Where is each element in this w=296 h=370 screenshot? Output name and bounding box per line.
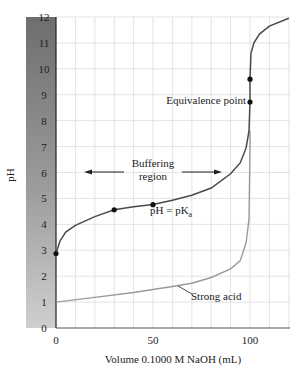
region-label: region [139,170,168,182]
y-tick-4: 4 [41,218,47,230]
pka-label: pH = pKa [150,204,193,219]
titration-chart: 0123456789101112 0 50 100 Volume 0.1000 … [0,0,296,370]
data-point [247,77,252,82]
data-point [53,251,58,256]
y-tick-5: 5 [41,192,47,204]
y-tick-7: 7 [41,141,47,153]
x-tick-100: 100 [242,334,259,346]
x-tick-0: 0 [53,334,59,346]
y-tick-6: 6 [41,167,47,179]
x-tick-50: 50 [148,334,160,346]
y-tick-10: 10 [39,63,51,75]
equivalence-label: Equivalence point [166,94,246,106]
arrow-right-icon [214,170,222,175]
y-tick-2: 2 [41,270,47,282]
data-point [247,99,252,104]
y-tick-1: 1 [41,296,47,308]
y-tick-11: 11 [39,37,50,49]
buffering-label: Buffering [132,157,175,169]
strong-acid-label: Strong acid [191,290,242,302]
arrow-left-icon [84,170,92,175]
y-tick-3: 3 [41,244,47,256]
y-tick-0: 0 [41,322,47,334]
y-tick-12: 12 [39,11,50,23]
x-axis-label: Volume 0.1000 M NaOH (mL) [105,353,242,366]
y-tick-9: 9 [41,89,47,101]
strong-acid-leader [178,286,192,294]
data-point [112,207,117,212]
y-tick-8: 8 [41,115,47,127]
y-axis-label: pH [4,168,16,182]
